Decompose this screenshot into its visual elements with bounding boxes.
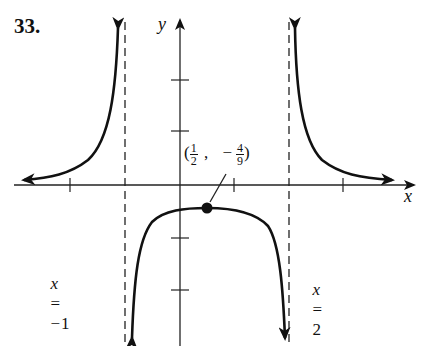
- asymptote-label-left: x = −1: [40, 254, 71, 334]
- point-close-paren: ): [244, 143, 250, 162]
- point-x-fraction: 12: [190, 142, 198, 167]
- curve-middle-branch: [132, 208, 285, 338]
- point-label: (12 , −49): [184, 142, 250, 167]
- curve-right-branch: [295, 28, 392, 180]
- local-max-point: [202, 203, 213, 214]
- point-y-fraction: 49: [236, 142, 244, 167]
- asymptote-right-var: x: [313, 280, 322, 299]
- asymptote-left-val: −1: [51, 314, 71, 333]
- asymptote-right-val: 2: [313, 320, 323, 339]
- asymptote-label-right: x = 2: [302, 260, 323, 340]
- asymptote-right-eq: =: [313, 300, 324, 319]
- asymptote-left-var: x: [51, 274, 60, 293]
- problem-number: 33.: [14, 14, 40, 39]
- point-y-sign: −: [222, 143, 232, 162]
- point-leader-line: [210, 174, 226, 202]
- point-separator: ,: [204, 143, 208, 162]
- curve-left-branch: [24, 28, 118, 180]
- x-axis-label: x: [404, 186, 412, 207]
- y-axis-label: y: [158, 14, 166, 35]
- asymptote-left-eq: =: [51, 294, 62, 313]
